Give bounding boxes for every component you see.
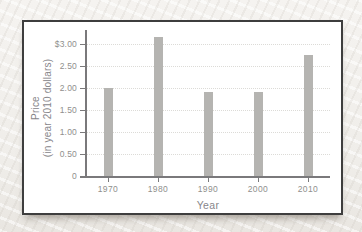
y-axis-title-line-2: (in year 2010 dollars) bbox=[41, 48, 53, 168]
bar-2010 bbox=[304, 55, 313, 176]
x-tick-mark bbox=[308, 178, 309, 182]
y-tick-mark bbox=[80, 88, 85, 89]
x-tick-label: 2000 bbox=[236, 184, 280, 194]
x-tick-mark bbox=[258, 178, 259, 182]
x-tick-label: 2010 bbox=[286, 184, 330, 194]
bar-1970 bbox=[104, 88, 113, 176]
x-tick-mark bbox=[208, 178, 209, 182]
gridline bbox=[86, 44, 330, 45]
x-axis-line bbox=[80, 176, 330, 178]
gridline bbox=[86, 66, 330, 67]
x-tick-label: 1990 bbox=[186, 184, 230, 194]
x-tick-mark bbox=[158, 178, 159, 182]
bar-1990 bbox=[204, 92, 213, 176]
x-tick-label: 1980 bbox=[136, 184, 180, 194]
gridline bbox=[86, 88, 330, 89]
chart-frame: 00.501.001.502.002.50$3.00 1970198019902… bbox=[22, 20, 343, 215]
y-tick-mark bbox=[80, 154, 85, 155]
bar-2000 bbox=[254, 92, 263, 176]
plot-area: 00.501.001.502.002.50$3.00 1970198019902… bbox=[24, 22, 341, 213]
y-tick-mark bbox=[80, 176, 85, 177]
y-tick-mark bbox=[80, 66, 85, 67]
x-tick-label: 1970 bbox=[86, 184, 130, 194]
x-tick-mark bbox=[108, 178, 109, 182]
y-axis-title: Price (in year 2010 dollars) bbox=[30, 48, 53, 168]
x-axis-title: Year bbox=[168, 199, 248, 211]
y-axis-title-line-1: Price bbox=[30, 48, 42, 168]
y-tick-label: 0 bbox=[43, 171, 77, 181]
y-axis-line bbox=[85, 30, 87, 177]
y-tick-mark bbox=[80, 132, 85, 133]
y-tick-mark bbox=[80, 110, 85, 111]
y-tick-mark bbox=[80, 44, 85, 45]
bar-1980 bbox=[154, 37, 163, 176]
page-background: 00.501.001.502.002.50$3.00 1970198019902… bbox=[0, 0, 362, 232]
